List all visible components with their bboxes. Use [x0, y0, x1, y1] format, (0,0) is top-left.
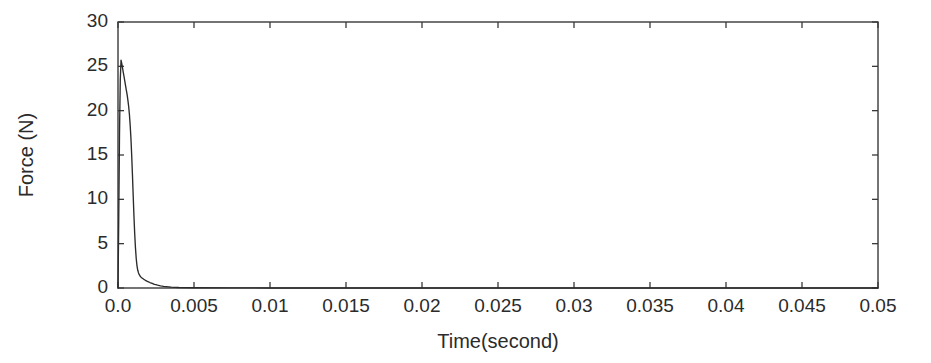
y-tick-label: 10 [87, 187, 108, 208]
y-axis-tick-labels: 051015202530 [87, 10, 108, 297]
force-series-line [118, 60, 878, 288]
force-time-plot: 0.00.0050.010.0150.020.0250.030.0350.040… [0, 0, 931, 363]
y-tick-label: 0 [97, 276, 108, 297]
y-tick-label: 25 [87, 54, 108, 75]
x-tick-label: 0.03 [556, 295, 593, 316]
y-tick-label: 20 [87, 99, 108, 120]
x-tick-label: 0.01 [252, 295, 289, 316]
x-tick-label: 0.025 [474, 295, 522, 316]
x-tick-label: 0.035 [626, 295, 674, 316]
y-tick-label: 30 [87, 10, 108, 31]
x-tick-label: 0.04 [708, 295, 745, 316]
x-axis-title: Time(second) [437, 330, 559, 352]
chart-figure: 0.00.0050.010.0150.020.0250.030.0350.040… [0, 0, 931, 363]
y-axis-title: Force (N) [15, 113, 37, 197]
y-tick-label: 15 [87, 143, 108, 164]
x-axis-tick-labels: 0.00.0050.010.0150.020.0250.030.0350.040… [105, 295, 897, 316]
x-tick-label: 0.005 [170, 295, 218, 316]
x-axis-ticks [118, 22, 878, 288]
y-tick-label: 5 [97, 232, 108, 253]
x-tick-label: 0.045 [778, 295, 826, 316]
x-tick-label: 0.0 [105, 295, 131, 316]
plot-frame [118, 22, 878, 288]
x-tick-label: 0.015 [322, 295, 370, 316]
x-tick-label: 0.05 [860, 295, 897, 316]
y-axis-ticks [118, 22, 878, 288]
x-tick-label: 0.02 [404, 295, 441, 316]
